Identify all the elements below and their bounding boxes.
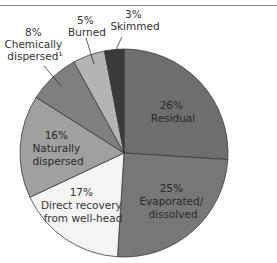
label-natural-line2: dispersed: [32, 155, 83, 167]
label-burned-name: Burned: [68, 26, 106, 38]
label-skimmed-pct: 3%: [125, 8, 142, 20]
label-chemical-line2: dispersed¹: [7, 50, 62, 62]
leader-skimmed: [117, 37, 122, 47]
label-evaporated-pct: 25%: [160, 182, 183, 194]
label-chemical-pct: 8%: [25, 26, 42, 38]
label-evaporated-line2: dissolved: [148, 208, 197, 220]
label-direct-line2: from well-head: [44, 212, 123, 224]
label-burned-pct: 5%: [77, 14, 94, 26]
svg-text:8% Chemically disperse: 8% Chemically dispersed¹: [4, 26, 65, 62]
pie-chart: 26% Residual 25% Evaporated/ dissolved 1…: [0, 0, 277, 263]
label-residual-name: Residual: [151, 112, 195, 124]
label-natural-line1: Naturally: [32, 142, 80, 154]
label-natural-pct: 16%: [45, 129, 68, 141]
label-residual-pct: 26%: [160, 99, 183, 111]
label-skimmed-name: Skimmed: [110, 20, 159, 32]
label-direct-line1: Direct recovery: [41, 199, 122, 211]
label-chemical-line1: Chemically: [4, 38, 62, 50]
svg-text:3% Skimmed: 3% Skimmed: [110, 8, 159, 32]
svg-text:5% Burned: 5% Burned: [68, 14, 106, 38]
label-evaporated-line1: Evaporated/: [139, 195, 203, 207]
label-direct-pct: 17%: [70, 186, 93, 198]
